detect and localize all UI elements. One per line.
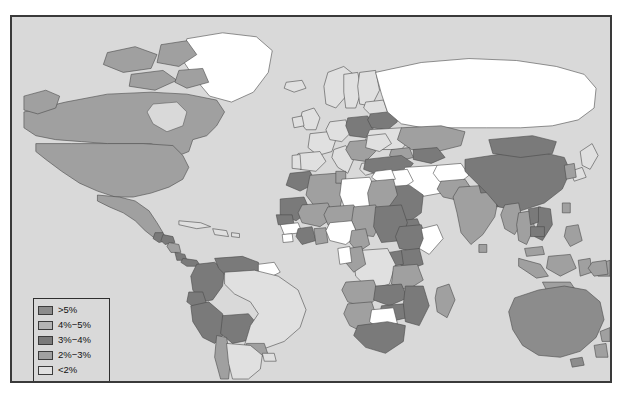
legend-item-3: 2%−3% — [38, 348, 105, 362]
figure-root: >5% 4%−5% 3%−4% 2%−3% <2% No data — [0, 0, 627, 407]
legend-label-3: 2%−3% — [58, 350, 91, 360]
region-sierra-leone — [282, 234, 293, 243]
legend-item-5: No data — [38, 378, 105, 383]
legend-item-4: <2% — [38, 363, 105, 377]
region-tasmania — [570, 357, 584, 367]
region-new-zealand-south — [594, 343, 608, 357]
region-puerto-rico — [232, 233, 240, 238]
region-malaysia — [525, 246, 545, 256]
legend-label-4: <2% — [58, 365, 77, 375]
region-korea — [564, 163, 576, 179]
region-taiwan — [562, 203, 570, 213]
map-legend: >5% 4%−5% 3%−4% 2%−3% <2% No data — [33, 298, 110, 383]
legend-swatch-0 — [38, 306, 53, 315]
region-gabon — [338, 246, 352, 264]
legend-swatch-4 — [38, 366, 53, 375]
region-uruguay — [262, 353, 276, 361]
legend-item-0: >5% — [38, 303, 105, 317]
region-russia — [376, 59, 597, 128]
legend-swatch-3 — [38, 351, 53, 360]
legend-label-1: 4%−5% — [58, 320, 91, 330]
region-cambodia — [531, 227, 545, 237]
legend-item-2: 3%−4% — [38, 333, 105, 347]
legend-swatch-5 — [38, 381, 53, 384]
region-mongolia — [489, 136, 557, 158]
legend-label-5: No data — [58, 380, 91, 383]
region-ireland — [292, 116, 304, 128]
legend-swatch-2 — [38, 336, 53, 345]
legend-item-1: 4%−5% — [38, 318, 105, 332]
region-portugal — [292, 154, 301, 169]
legend-swatch-1 — [38, 321, 53, 330]
region-sri-lanka — [479, 245, 487, 253]
map-frame: >5% 4%−5% 3%−4% 2%−3% <2% No data — [10, 15, 612, 383]
legend-label-0: >5% — [58, 305, 77, 315]
legend-label-2: 3%−4% — [58, 335, 91, 345]
